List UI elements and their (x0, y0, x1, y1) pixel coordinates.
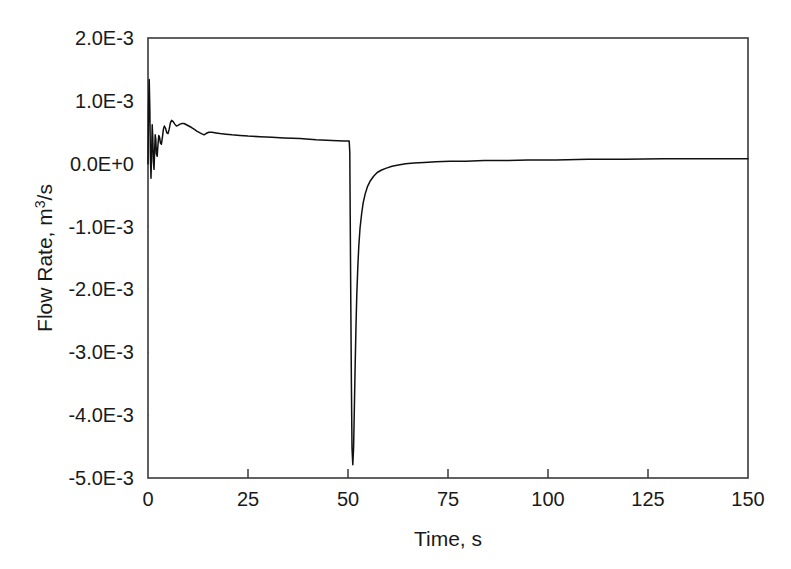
y-axis-title-tail: /s (33, 184, 56, 200)
y-axis-title-lead: Flow Rate, m (33, 208, 56, 332)
x-axis-title: Time, s (414, 527, 482, 550)
x-tick-label: 0 (142, 488, 153, 510)
chart-figure: 0255075100125150 2.0E-31.0E-30.0E+0-1.0E… (0, 0, 791, 569)
y-tick-label: -2.0E-3 (68, 278, 134, 300)
x-tick-label: 50 (337, 488, 359, 510)
x-tick-label: 125 (631, 488, 664, 510)
y-tick-label: 2.0E-3 (75, 27, 134, 49)
y-axis-title-superscript: 3 (32, 200, 48, 208)
y-tick-label: -4.0E-3 (68, 404, 134, 426)
x-tick-label: 100 (531, 488, 564, 510)
y-tick-label: -3.0E-3 (68, 341, 134, 363)
y-tick-label: -1.0E-3 (68, 216, 134, 238)
flow-rate-line-chart: 0255075100125150 2.0E-31.0E-30.0E+0-1.0E… (0, 0, 791, 569)
y-tick-label: 1.0E-3 (75, 90, 134, 112)
x-tick-label: 75 (437, 488, 459, 510)
y-tick-label: -5.0E-3 (68, 467, 134, 489)
x-tick-label: 150 (731, 488, 764, 510)
y-tick-label: 0.0E+0 (70, 153, 134, 175)
x-tick-label: 25 (237, 488, 259, 510)
